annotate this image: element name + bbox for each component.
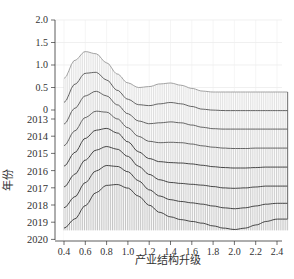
- density-tick-label: 0.5: [36, 82, 49, 93]
- x-tick-label: 2.4: [271, 246, 284, 257]
- year-axis-label: 年份: [1, 169, 14, 191]
- x-tick-label: 1.0: [122, 246, 135, 257]
- year-tick-label: 2019: [27, 217, 48, 228]
- year-tick-label: 2013: [27, 114, 48, 125]
- year-tick-label: 2015: [27, 148, 48, 159]
- year-tick-label: 2016: [27, 166, 48, 177]
- density-tick-label: 1.0: [36, 59, 49, 70]
- x-axis-label: 产业结构升级: [135, 253, 201, 266]
- density-tick-label: 2.0: [36, 14, 49, 25]
- x-tick-label: 2.2: [249, 246, 262, 257]
- partial-caption: [0, 271, 294, 279]
- x-tick-label: 0.4: [58, 246, 71, 257]
- ridgeline-density-chart: 00.51.01.52.0 20132014201520162017201820…: [0, 0, 294, 279]
- density-tick-label: 1.5: [36, 37, 49, 48]
- x-tick-label: 2.0: [228, 246, 241, 257]
- year-tick-label: 2014: [27, 131, 49, 142]
- density-ticks: 00.51.01.52.0: [36, 14, 56, 115]
- ridge-surfaces: [64, 52, 288, 255]
- year-ticks: 20132014201520162017201820192020: [27, 114, 55, 245]
- x-tick-label: 0.6: [79, 246, 92, 257]
- x-tick-label: 1.8: [207, 246, 220, 257]
- year-tick-label: 2020: [27, 234, 48, 245]
- year-tick-label: 2018: [27, 200, 48, 211]
- x-tick-label: 0.8: [100, 246, 113, 257]
- year-tick-label: 2017: [27, 183, 48, 194]
